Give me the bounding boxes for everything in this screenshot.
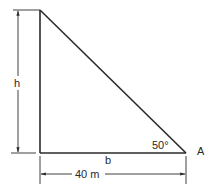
angle-label: 50° [152, 139, 169, 151]
triangle [40, 10, 186, 153]
height-label: h [14, 77, 20, 89]
base-dimension-label: 40 m [75, 168, 99, 180]
hypotenuse [40, 10, 186, 153]
base-dimension [40, 156, 186, 184]
base-label: b [105, 154, 111, 166]
triangle-diagram: h 40 m b 50° A [0, 0, 210, 193]
vertex-label: A [197, 145, 205, 157]
